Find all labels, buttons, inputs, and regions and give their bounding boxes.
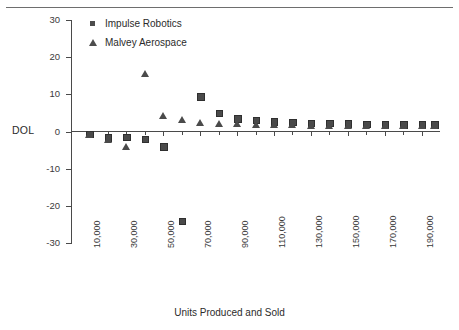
x-minor-tick: [219, 132, 220, 135]
square-marker-icon: [88, 18, 100, 29]
x-tick-label: 190,000: [426, 215, 435, 248]
scatter-plot-area: 3020100-10-20-30 10,00030,00050,00070,00…: [0, 0, 459, 330]
x-tick-label: 90,000: [241, 220, 250, 248]
y-tick: [66, 132, 71, 133]
x-axis-title: Units Produced and Sold: [0, 307, 459, 318]
data-point-malvey-aerospace: [270, 121, 278, 128]
y-tick-label: -30: [34, 238, 60, 248]
data-point-impulse-robotics: [123, 134, 131, 142]
data-point-malvey-aerospace: [325, 122, 333, 129]
data-point-malvey-aerospace: [215, 120, 223, 127]
x-tick: [163, 132, 164, 136]
data-point-malvey-aerospace: [141, 70, 149, 77]
data-point-impulse-robotics: [216, 110, 224, 118]
x-minor-tick: [292, 132, 293, 135]
x-tick-label: 30,000: [130, 220, 139, 248]
data-point-malvey-aerospace: [430, 122, 438, 129]
data-point-malvey-aerospace: [288, 121, 296, 128]
data-point-malvey-aerospace: [233, 120, 241, 127]
chart-figure: 3020100-10-20-30 10,00030,00050,00070,00…: [0, 0, 459, 330]
data-point-impulse-robotics: [197, 93, 205, 101]
y-axis-title: DOL: [12, 125, 34, 136]
x-tick-label: 10,000: [93, 220, 102, 248]
legend-item-impulse-robotics: Impulse Robotics: [88, 16, 187, 31]
y-tick: [66, 94, 71, 95]
y-tick: [66, 243, 71, 244]
y-tick: [66, 20, 71, 21]
data-point-malvey-aerospace: [104, 136, 112, 143]
data-point-malvey-aerospace: [85, 131, 93, 138]
y-tick-label: 30: [34, 15, 60, 25]
x-tick-label: 50,000: [167, 220, 176, 248]
x-tick: [274, 132, 275, 136]
data-point-impulse-robotics: [142, 136, 150, 144]
y-tick-label: 0: [34, 127, 60, 137]
data-point-malvey-aerospace: [196, 119, 204, 126]
y-axis-line: [71, 20, 72, 244]
x-tick: [385, 132, 386, 136]
data-point-malvey-aerospace: [252, 121, 260, 128]
y-tick: [66, 169, 71, 170]
y-tick-label: 20: [34, 52, 60, 62]
x-tick: [422, 132, 423, 136]
x-minor-tick: [145, 132, 146, 135]
x-tick-label: 70,000: [204, 220, 213, 248]
x-minor-tick: [403, 132, 404, 135]
x-minor-tick: [366, 132, 367, 135]
data-point-malvey-aerospace: [344, 122, 352, 129]
triangle-marker-icon: [88, 37, 100, 48]
data-point-malvey-aerospace: [399, 122, 407, 129]
data-point-malvey-aerospace: [418, 122, 426, 129]
data-point-malvey-aerospace: [159, 112, 167, 119]
legend-label-malvey-aerospace: Malvey Aerospace: [105, 37, 187, 48]
y-tick-label: -20: [34, 201, 60, 211]
data-point-malvey-aerospace: [122, 143, 130, 150]
data-point-malvey-aerospace: [381, 122, 389, 129]
x-tick-label: 110,000: [278, 216, 287, 248]
x-minor-tick: [182, 132, 183, 135]
legend-label-impulse-robotics: Impulse Robotics: [105, 18, 182, 29]
x-tick: [237, 132, 238, 136]
chart-legend: Impulse Robotics Malvey Aerospace: [88, 16, 187, 54]
x-minor-tick: [329, 132, 330, 135]
data-point-malvey-aerospace: [362, 122, 370, 129]
x-tick-label: 130,000: [315, 215, 324, 248]
x-tick-label: 150,000: [352, 215, 361, 248]
y-tick: [66, 206, 71, 207]
x-tick: [200, 132, 201, 136]
x-tick: [348, 132, 349, 136]
legend-item-malvey-aerospace: Malvey Aerospace: [88, 35, 187, 50]
y-tick-label: 10: [34, 89, 60, 99]
y-tick-label: -10: [34, 164, 60, 174]
data-point-malvey-aerospace: [178, 116, 186, 123]
data-point-impulse-robotics: [160, 143, 168, 151]
x-minor-tick: [256, 132, 257, 135]
data-point-malvey-aerospace: [307, 122, 315, 129]
x-tick: [311, 132, 312, 136]
y-tick: [66, 57, 71, 58]
x-tick-label: 170,000: [389, 215, 398, 248]
data-point-impulse-robotics: [179, 218, 187, 226]
